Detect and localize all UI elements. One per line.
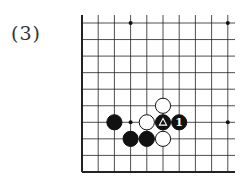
white-stone [155, 98, 170, 113]
black-stone [139, 131, 154, 146]
go-board-diagram: 1 [0, 0, 248, 188]
black-stone [107, 115, 122, 130]
black-stone [155, 115, 170, 130]
star-point [226, 21, 230, 25]
white-stone [155, 131, 170, 146]
black-stone [123, 131, 138, 146]
star-point [129, 120, 133, 124]
black-stone: 1 [172, 115, 187, 130]
board-grid [82, 15, 235, 172]
move-number: 1 [175, 116, 183, 129]
star-point [226, 120, 230, 124]
white-stone [139, 115, 154, 130]
star-point [129, 21, 133, 25]
